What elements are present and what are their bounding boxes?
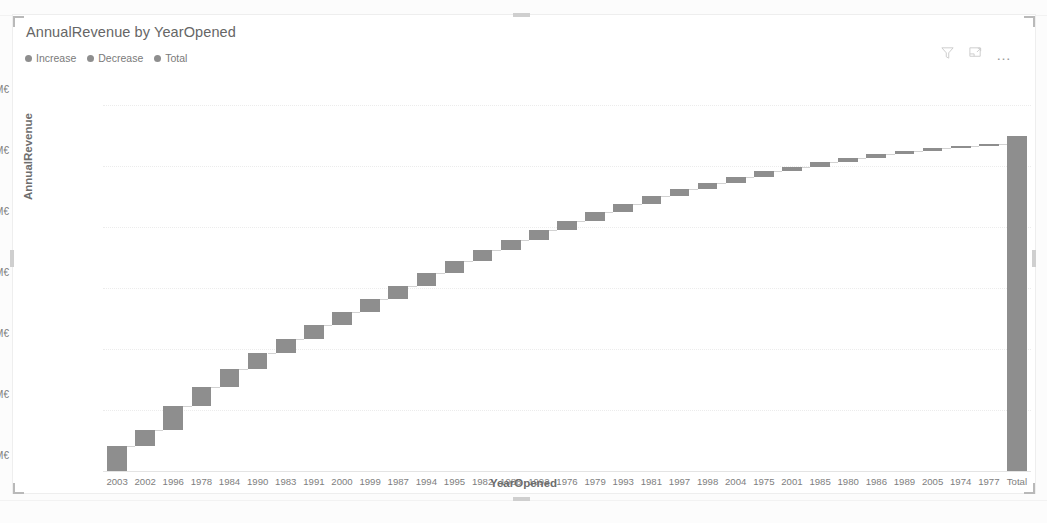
report-canvas: … 20032002199619781984199019831991200019… — [0, 0, 1047, 523]
waterfall-bar[interactable] — [360, 299, 380, 312]
legend-item[interactable]: Total — [154, 52, 187, 64]
waterfall-connector — [127, 446, 135, 447]
waterfall-connector — [239, 369, 247, 370]
gridline — [103, 288, 1031, 289]
x-axis-line — [103, 471, 1031, 472]
waterfall-connector — [774, 171, 782, 172]
y-axis-tick-label: 100M€ — [0, 145, 9, 156]
waterfall-connector — [717, 183, 725, 184]
waterfall-connector — [380, 299, 388, 300]
y-axis-tick-label: 60M€ — [0, 267, 9, 278]
waterfall-bar[interactable] — [979, 144, 999, 146]
waterfall-bar[interactable] — [642, 196, 662, 204]
waterfall-connector — [661, 196, 669, 197]
legend-swatch-icon — [154, 55, 161, 62]
waterfall-bar[interactable] — [135, 430, 155, 446]
waterfall-connector — [324, 325, 332, 326]
y-axis-tick-label: 20M€ — [0, 389, 9, 400]
waterfall-connector — [464, 261, 472, 262]
waterfall-bar[interactable] — [754, 171, 774, 176]
chart-legend: IncreaseDecreaseTotal — [25, 52, 187, 64]
waterfall-bar[interactable] — [895, 151, 915, 154]
legend-item[interactable]: Increase — [25, 52, 76, 64]
waterfall-connector — [689, 189, 697, 190]
legend-item-label: Total — [165, 52, 187, 64]
waterfall-connector — [942, 148, 950, 149]
y-axis-tick-label: 40M€ — [0, 328, 9, 339]
waterfall-connector — [605, 212, 613, 213]
waterfall-bar[interactable] — [107, 446, 127, 471]
waterfall-bar[interactable] — [332, 312, 352, 325]
waterfall-bar[interactable] — [557, 221, 577, 230]
waterfall-bar[interactable] — [529, 230, 549, 240]
waterfall-connector — [577, 221, 585, 222]
y-axis-title: AnnualRevenue — [22, 113, 34, 200]
resize-handle-bottom[interactable] — [513, 497, 530, 501]
waterfall-connector — [155, 430, 163, 431]
waterfall-bar[interactable] — [810, 162, 830, 167]
resize-handle-right[interactable] — [1032, 250, 1036, 267]
legend-item[interactable]: Decrease — [87, 52, 143, 64]
waterfall-bar[interactable] — [276, 339, 296, 353]
gridline — [103, 410, 1031, 411]
waterfall-connector — [549, 230, 557, 231]
waterfall-connector — [436, 273, 444, 274]
filter-icon[interactable] — [940, 45, 955, 64]
resize-handle-left[interactable] — [10, 250, 14, 267]
gridline — [103, 166, 1031, 167]
waterfall-connector — [408, 286, 416, 287]
waterfall-connector — [886, 154, 894, 155]
waterfall-bar[interactable] — [698, 183, 718, 189]
legend-item-label: Decrease — [98, 52, 143, 64]
waterfall-bar[interactable] — [613, 204, 633, 212]
focus-mode-icon[interactable] — [968, 45, 983, 64]
waterfall-connector — [914, 151, 922, 152]
visual-title: AnnualRevenue by YearOpened — [26, 24, 236, 40]
waterfall-connector — [492, 250, 500, 251]
waterfall-bar[interactable] — [248, 353, 268, 369]
waterfall-total-bar[interactable] — [1007, 136, 1027, 472]
waterfall-bar[interactable] — [951, 146, 971, 148]
waterfall-bar[interactable] — [473, 250, 493, 261]
waterfall-connector — [521, 240, 529, 241]
waterfall-connector — [802, 167, 810, 168]
gridline — [103, 105, 1031, 106]
more-options-icon[interactable]: … — [996, 51, 1013, 59]
waterfall-connector — [999, 144, 1007, 145]
waterfall-bar[interactable] — [782, 167, 802, 172]
waterfall-bar[interactable] — [923, 148, 943, 151]
waterfall-connector — [830, 162, 838, 163]
y-axis-tick-label: 120M€ — [0, 84, 9, 95]
x-axis-title: YearOpened — [0, 477, 1047, 489]
visual-header-icons: … — [940, 45, 1013, 64]
waterfall-bar[interactable] — [220, 369, 240, 388]
waterfall-bar[interactable] — [670, 189, 690, 196]
waterfall-bar[interactable] — [417, 273, 437, 286]
gridline — [103, 349, 1031, 350]
y-axis-tick-label: 0M€ — [0, 450, 9, 461]
waterfall-chart-visual[interactable]: … 20032002199619781984199019831991200019… — [12, 14, 1036, 494]
legend-swatch-icon — [87, 55, 94, 62]
waterfall-bar[interactable] — [445, 261, 465, 273]
plot-area — [103, 105, 1031, 471]
y-axis-tick-label: 80M€ — [0, 206, 9, 217]
waterfall-connector — [633, 204, 641, 205]
waterfall-connector — [183, 406, 191, 407]
waterfall-bar[interactable] — [388, 286, 408, 299]
waterfall-connector — [352, 312, 360, 313]
waterfall-bar[interactable] — [726, 177, 746, 183]
legend-swatch-icon — [25, 55, 32, 62]
waterfall-bar[interactable] — [304, 325, 324, 339]
waterfall-bar[interactable] — [866, 154, 886, 158]
waterfall-connector — [971, 146, 979, 147]
waterfall-bar[interactable] — [838, 158, 858, 162]
resize-handle-top[interactable] — [513, 13, 530, 17]
waterfall-bar[interactable] — [192, 387, 212, 406]
waterfall-connector — [296, 339, 304, 340]
waterfall-connector — [858, 158, 866, 159]
waterfall-bar[interactable] — [585, 212, 605, 221]
waterfall-connector — [211, 387, 219, 388]
waterfall-bar[interactable] — [501, 240, 521, 250]
waterfall-connector — [746, 177, 754, 178]
waterfall-bar[interactable] — [163, 406, 183, 430]
